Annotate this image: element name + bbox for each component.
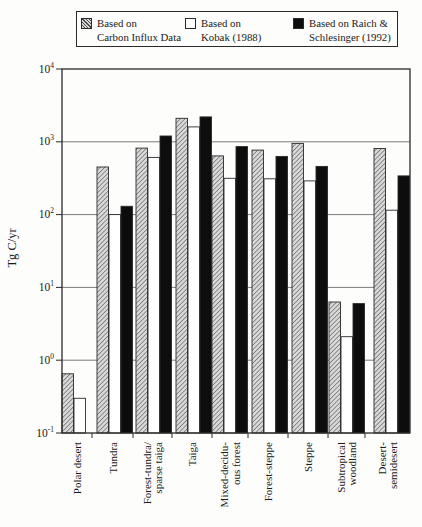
legend-label-line2: Kobak (1988) [201,31,261,43]
x-category-label: Taiga [186,442,198,466]
legend-label-line1: Based on [201,17,241,29]
bar-hatched-tundra [97,167,109,433]
bar-hatched-forest-tundra- [136,148,148,433]
bar-hatched-subtropical [329,302,341,433]
x-category-label: Tundra [107,442,119,473]
bar-black-steppe [316,166,328,433]
bar-white-tundra [109,215,121,433]
bar-white-steppe [304,181,316,433]
legend-label-line2: Schlesinger (1992) [309,31,391,43]
bar-hatched-forest-steppe [252,150,264,433]
legend-item-carbon-influx: Based onCarbon Influx Data [81,17,181,44]
bar-hatched-polar-desert [62,374,74,433]
bar-black-tundra [121,206,133,433]
bar-white-taiga [188,127,200,433]
x-category-label: Subtropical [335,442,347,493]
bar-black-forest-tundra- [160,136,172,433]
legend-item-raich-schlesinger: Based on Raich &Schlesinger (1992) [293,17,391,44]
bar-hatched-steppe [292,143,304,433]
legend: Based onCarbon Influx Data Based onKobak… [76,11,398,47]
legend-item-kobak: Based onKobak (1988) [185,17,261,44]
bar-hatched-desert- [374,149,386,434]
bar-black-forest-steppe [276,156,288,433]
x-category-label: Desert- [376,442,388,475]
bar-black-taiga [200,117,212,433]
y-tick-label: 10-1 [36,425,54,439]
bar-black-desert- [398,176,410,433]
bar-white-forest-tundra- [148,157,160,433]
x-category-label: semidesert [387,442,399,489]
bar-white-polar-desert [74,398,86,433]
bar-white-desert- [386,210,398,433]
legend-label-line1: Based on Raich & [309,17,388,29]
legend-label: Based onKobak (1988) [201,17,261,44]
bar-black-subtropical [353,304,365,433]
bar-hatched-taiga [176,118,188,433]
black-swatch-icon [293,18,304,29]
legend-label-line1: Based on [97,17,137,29]
legend-label-line2: Carbon Influx Data [97,31,181,43]
bar-white-mixed-decidu- [224,178,236,433]
x-category-label: Forest-steppe [262,442,274,501]
bar-white-subtropical [341,337,353,433]
bar-hatched-mixed-decidu- [212,156,224,433]
y-tick-label: 102 [39,206,55,220]
bar-black-mixed-decidu- [236,147,248,433]
x-category-label: woodland [346,442,358,486]
figure: Based onCarbon Influx Data Based onKobak… [0,0,422,527]
x-category-label: Forest-tundra/ [141,441,153,504]
x-category-label: ous forest [230,442,242,485]
y-tick-label: 104 [39,61,55,75]
bar-chart: 10410310210110010-1Polar desertTundraFor… [0,0,422,527]
y-tick-label: 101 [39,279,55,293]
legend-label: Based on Raich &Schlesinger (1992) [309,17,391,44]
bar-white-forest-steppe [264,179,276,433]
y-axis-title: Tg C/yr [5,228,19,268]
y-tick-label: 103 [39,133,55,147]
x-category-label: sparse taiga [152,442,164,494]
x-category-label: Mixed-decidu- [218,442,230,508]
hatched-swatch-icon [81,18,92,29]
y-tick-label: 100 [39,352,55,366]
x-category-label: Polar desert [71,442,83,494]
white-swatch-icon [185,18,196,29]
x-category-label: Steppe [302,442,314,472]
legend-label: Based onCarbon Influx Data [97,17,181,44]
